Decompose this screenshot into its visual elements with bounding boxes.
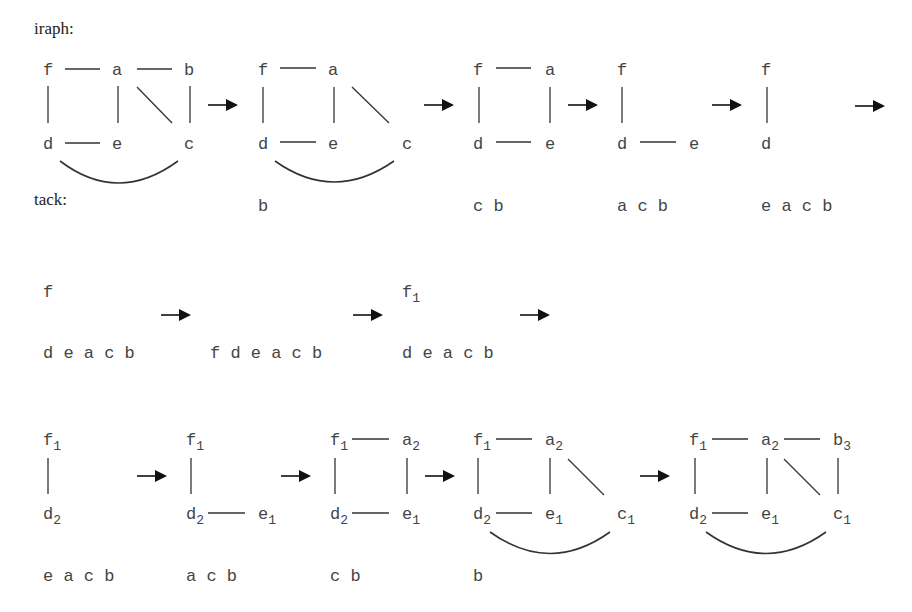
row3-panel-5: f1 a2 b3 d2 e1 c1: [689, 431, 851, 554]
node-f: f: [43, 283, 53, 302]
arrow-icon: [425, 470, 455, 482]
edge-d-c: [706, 532, 826, 554]
row2-panel-2: f d e a c b: [210, 344, 322, 363]
node-e: e: [689, 135, 699, 154]
row3-panel-4: f1 a2 d2 e1 c1 b: [473, 431, 635, 586]
row3-panel-1: f1 d2 e a c b: [43, 431, 114, 586]
node-a: a2: [761, 431, 779, 454]
stack-contents: b: [473, 567, 483, 586]
stack-contents: a c b: [186, 567, 237, 586]
node-a: a2: [545, 431, 563, 454]
row1-panel-1: f a b d e c: [43, 61, 194, 183]
row1-panel-3: f a d e c b: [473, 61, 555, 216]
node-a: a2: [402, 431, 420, 454]
row1-panel-2: f a d e c b: [258, 61, 412, 216]
stack-contents: e a c b: [43, 567, 114, 586]
node-d: d2: [330, 505, 348, 528]
node-d: d: [761, 135, 771, 154]
node-f: f1: [402, 283, 420, 306]
node-d: d2: [689, 505, 707, 528]
node-b: b: [184, 61, 194, 80]
node-c: c1: [833, 505, 851, 528]
node-f: f: [43, 61, 53, 80]
node-f: f1: [330, 431, 348, 454]
stack-contents: c b: [473, 197, 504, 216]
row1-panel-5: f d e a c b: [761, 61, 832, 216]
node-f: f: [473, 61, 483, 80]
stack-contents: d e a c b: [43, 344, 135, 363]
stack-contents: d e a c b: [402, 344, 494, 363]
node-e: e: [328, 135, 338, 154]
arrow-icon: [208, 99, 238, 111]
arrow-icon: [640, 470, 670, 482]
arrow-icon: [353, 309, 383, 321]
row3-panel-2: f1 d2 e1 a c b: [186, 431, 276, 586]
arrow-icon: [137, 470, 167, 482]
node-e: e1: [545, 505, 563, 528]
node-c: c: [184, 135, 194, 154]
edge-d-c: [60, 161, 178, 183]
stack-contents: f d e a c b: [210, 344, 322, 363]
node-c: c: [402, 135, 412, 154]
node-e: e: [112, 135, 122, 154]
edge-a-c: [784, 459, 820, 495]
node-e: e1: [258, 505, 276, 528]
edge-d-c: [490, 532, 610, 554]
node-f: f: [258, 61, 268, 80]
stack-contents: b: [258, 197, 268, 216]
row2-panel-3: f1 d e a c b: [402, 283, 494, 363]
node-e: e: [545, 135, 555, 154]
node-a: a: [112, 61, 122, 80]
stack-label: tack:: [34, 190, 67, 209]
node-e: e1: [402, 505, 420, 528]
edge-a-c: [568, 459, 604, 495]
arrow-icon: [281, 470, 311, 482]
arrow-icon: [424, 99, 454, 111]
node-e: e1: [761, 505, 779, 528]
arrow-icon: [161, 309, 191, 321]
node-f: f: [617, 61, 627, 80]
node-d: d: [473, 135, 483, 154]
node-d: d: [617, 135, 627, 154]
edge-d-c: [275, 161, 394, 182]
node-d: d2: [186, 505, 204, 528]
arrow-icon: [568, 99, 598, 111]
row1-panel-4: f d e a c b: [617, 61, 699, 216]
node-d: d2: [473, 505, 491, 528]
node-f: f1: [473, 431, 491, 454]
node-a: a: [328, 61, 338, 80]
node-f: f1: [186, 431, 204, 454]
arrow-icon: [855, 100, 885, 112]
node-f: f1: [43, 431, 61, 454]
node-a: a: [545, 61, 555, 80]
stack-contents: a c b: [617, 197, 668, 216]
node-b: b3: [833, 431, 851, 454]
arrow-icon: [712, 99, 742, 111]
node-c: c1: [617, 505, 635, 528]
row2-panel-1: f d e a c b: [43, 283, 135, 363]
node-d: d2: [43, 505, 61, 528]
stack-contents: e a c b: [761, 197, 832, 216]
arrow-icon: [520, 309, 550, 321]
row3-panel-3: f1 a2 d2 e1 c b: [330, 431, 420, 586]
graph-label: iraph:: [34, 19, 74, 38]
edge-a-c: [137, 87, 172, 123]
node-d: d: [258, 135, 268, 154]
node-f: f1: [689, 431, 707, 454]
stack-contents: c b: [330, 567, 361, 586]
node-f: f: [761, 61, 771, 80]
graph-coloring-diagram: iraph: tack: f a b d e c f a d e c b f: [0, 0, 912, 612]
edge-a-c: [352, 87, 389, 123]
node-d: d: [43, 135, 53, 154]
